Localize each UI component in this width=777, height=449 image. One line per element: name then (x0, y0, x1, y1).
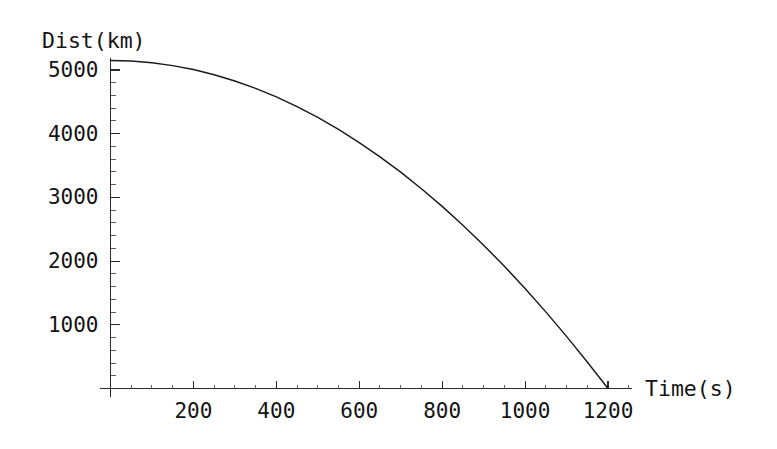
y-axis-title: Dist(km) (42, 28, 146, 53)
x-axis-tick-label: 200 (174, 399, 212, 423)
chart-figure: 10002000300040005000 2004006008001000120… (0, 0, 777, 449)
y-axis-tick-label: 5000 (48, 58, 99, 82)
distance-vs-time-plot: 10002000300040005000 2004006008001000120… (0, 0, 777, 449)
y-axis-tick-label: 1000 (48, 313, 99, 337)
x-axis-tick-label: 800 (423, 399, 461, 423)
x-axis-tick-label: 600 (340, 399, 378, 423)
y-axis-tick-label: 3000 (48, 185, 99, 209)
x-axis-tick-label: 400 (257, 399, 295, 423)
x-axis-title: Time(s) (645, 376, 736, 401)
y-axis-tick-label: 2000 (48, 249, 99, 273)
x-axis-tick-label: 1200 (583, 399, 634, 423)
y-axis-tick-label: 4000 (48, 122, 99, 146)
x-axis-tick-label: 1000 (500, 399, 551, 423)
